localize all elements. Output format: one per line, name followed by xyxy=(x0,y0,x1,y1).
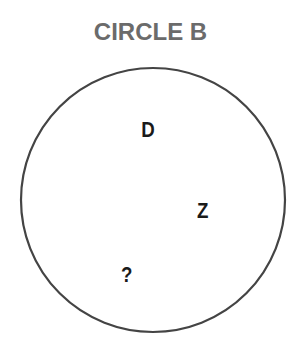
question-mark: ? xyxy=(121,262,132,288)
letter-z: Z xyxy=(197,198,208,224)
circle-diagram xyxy=(0,0,301,349)
circle-outline xyxy=(21,68,285,332)
letter-d: D xyxy=(141,117,155,143)
